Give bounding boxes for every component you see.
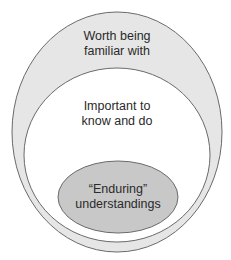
middle-label-line1: Important to [47, 99, 187, 114]
outer-label: Worth being familiar with [47, 29, 187, 59]
inner-label-line1: “Enduring” [48, 182, 188, 197]
inner-label-line2: understandings [48, 197, 188, 212]
middle-label: Important to know and do [47, 99, 187, 129]
outer-label-line2: familiar with [47, 44, 187, 59]
middle-label-line2: know and do [47, 114, 187, 129]
outer-label-line1: Worth being [47, 29, 187, 44]
inner-label: “Enduring” understandings [48, 182, 188, 212]
